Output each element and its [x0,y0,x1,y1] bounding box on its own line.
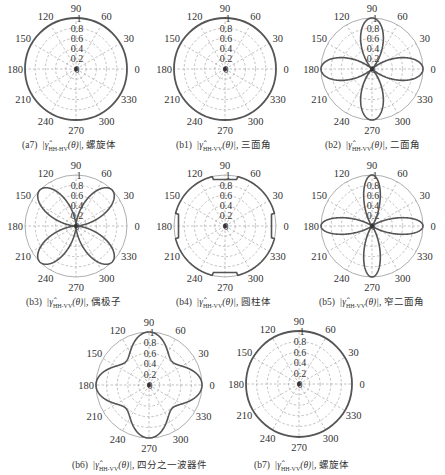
svg-text:300: 300 [99,116,115,127]
caption-b3: (b3) |γ̂HH-VV(θ)|, 偶极子 [26,294,121,309]
svg-text:150: 150 [164,190,180,201]
svg-text:120: 120 [334,11,350,22]
svg-text:30: 30 [124,190,135,201]
svg-text:0.8: 0.8 [71,23,84,34]
svg-text:0.6: 0.6 [367,33,380,44]
svg-text:240: 240 [187,273,203,284]
svg-text:0.6: 0.6 [144,348,157,359]
svg-text:240: 240 [110,434,126,445]
svg-text:0: 0 [209,380,214,391]
svg-text:180: 180 [156,221,172,232]
svg-text:30: 30 [420,190,431,201]
svg-text:0.6: 0.6 [71,33,84,44]
panel-b3: 030609012015018021024027030033000.20.40.… [0,157,150,312]
caption-b1: (b1) |γ̂HH-VV(θ)|, 三面角 [176,137,271,152]
svg-text:210: 210 [164,251,180,262]
svg-text:120: 120 [38,168,54,179]
polar-plot-a7: 030609012015018021024027030033000.20.40.… [0,0,150,135]
svg-text:0.6: 0.6 [220,190,233,201]
svg-text:30: 30 [348,347,359,358]
svg-text:300: 300 [248,273,264,284]
svg-text:240: 240 [334,273,350,284]
svg-text:0.4: 0.4 [144,358,157,369]
svg-text:30: 30 [273,190,284,201]
svg-text:0: 0 [283,64,288,75]
polar-plot-b5: 030609012015018021024027030033000.20.40.… [297,157,445,292]
panel-b4: 030609012015018021024027030033000.20.40.… [150,157,298,312]
svg-text:1: 1 [77,170,82,181]
svg-text:0.4: 0.4 [71,43,84,54]
panel-a7: 030609012015018021024027030033000.20.40.… [0,0,150,155]
svg-text:60: 60 [175,325,186,336]
svg-text:30: 30 [198,348,209,359]
svg-text:150: 150 [311,33,327,44]
svg-text:0: 0 [134,221,139,232]
svg-text:150: 150 [15,190,31,201]
caption-b2: (b2) |γ̂HH-VV(θ)|, 二面角 [325,137,420,152]
svg-text:60: 60 [250,11,261,22]
svg-text:0.2: 0.2 [220,53,233,64]
svg-text:300: 300 [395,116,411,127]
svg-text:0.4: 0.4 [294,357,307,368]
svg-text:150: 150 [237,347,253,358]
polar-plot-b2: 030609012015018021024027030033000.20.40.… [297,0,445,135]
svg-text:0: 0 [430,221,435,232]
svg-text:210: 210 [311,251,327,262]
svg-text:270: 270 [291,442,307,453]
svg-text:180: 180 [78,380,94,391]
svg-text:0.6: 0.6 [294,347,307,358]
svg-text:60: 60 [250,168,261,179]
svg-text:0.8: 0.8 [144,337,157,348]
svg-text:0.8: 0.8 [220,180,233,191]
svg-text:1: 1 [226,13,231,24]
svg-text:0.2: 0.2 [220,210,233,221]
caption-b4: (b4) |γ̂HH-VV(θ)|, 圆柱体 [176,294,271,309]
polar-plot-b7: 030609012015018021024027030033000.20.40.… [220,315,390,457]
svg-text:240: 240 [187,116,203,127]
svg-text:210: 210 [15,251,31,262]
svg-text:150: 150 [164,33,180,44]
svg-text:270: 270 [68,282,84,293]
svg-text:0.6: 0.6 [71,190,84,201]
svg-text:210: 210 [87,411,103,422]
svg-text:270: 270 [364,125,380,136]
svg-text:60: 60 [397,11,408,22]
svg-text:60: 60 [325,324,336,335]
svg-text:300: 300 [395,273,411,284]
svg-text:1: 1 [77,13,82,24]
svg-text:0: 0 [283,221,288,232]
svg-text:120: 120 [110,325,126,336]
svg-text:0: 0 [359,379,364,390]
svg-text:30: 30 [124,33,135,44]
svg-text:270: 270 [217,125,233,136]
polar-plot-b6: 030609012015018021024027030033000.20.40.… [60,315,230,457]
svg-text:270: 270 [217,282,233,293]
svg-text:0: 0 [430,64,435,75]
polar-plot-b1: 030609012015018021024027030033000.20.40.… [150,0,298,135]
svg-text:180: 180 [303,64,319,75]
svg-text:180: 180 [156,64,172,75]
svg-text:240: 240 [38,116,54,127]
svg-text:120: 120 [334,168,350,179]
svg-text:330: 330 [346,410,362,421]
svg-text:0.2: 0.2 [144,369,157,380]
svg-text:1: 1 [300,326,305,337]
svg-text:270: 270 [68,125,84,136]
svg-text:180: 180 [303,221,319,232]
svg-text:30: 30 [273,33,284,44]
svg-text:240: 240 [260,433,276,444]
svg-text:240: 240 [334,116,350,127]
svg-text:180: 180 [7,64,23,75]
svg-text:60: 60 [101,168,112,179]
svg-text:0.8: 0.8 [367,23,380,34]
svg-text:270: 270 [141,443,157,454]
svg-text:120: 120 [260,324,276,335]
svg-text:210: 210 [237,410,253,421]
svg-text:0.8: 0.8 [71,180,84,191]
svg-text:60: 60 [397,168,408,179]
caption-b6: (b6) |γ̂HH-VV(θ)|, 四分之一波器件 [72,457,207,472]
panel-b6: 030609012015018021024027030033000.20.40.… [60,315,230,475]
svg-text:330: 330 [270,94,286,105]
svg-text:60: 60 [101,11,112,22]
polar-plot-b3: 030609012015018021024027030033000.20.40.… [0,157,150,292]
